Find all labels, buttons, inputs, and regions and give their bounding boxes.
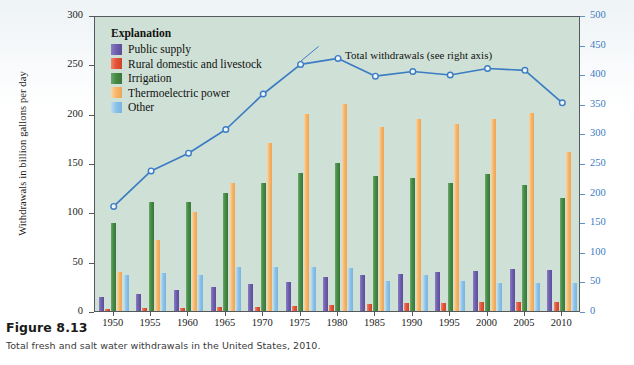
left-tick-mark-150 (89, 164, 94, 165)
bar-thermoelectric-2000 (491, 119, 496, 311)
bar-rural-2005 (516, 302, 521, 311)
x-tick-mark-2000 (487, 312, 488, 316)
bar-other-1950 (124, 275, 129, 312)
bar-irrigation-2005 (522, 185, 527, 311)
bar-public-1990 (398, 274, 403, 311)
bar-other-1960 (198, 275, 203, 312)
bar-other-1970 (273, 267, 278, 311)
bar-public-2010 (547, 270, 552, 311)
left-tick-label-50: 50 (49, 256, 83, 267)
bar-irrigation-2010 (560, 198, 565, 311)
bar-group-1990 (398, 17, 428, 311)
right-tick-mark-300 (580, 134, 585, 135)
bar-other-1995 (460, 281, 465, 311)
bar-thermoelectric-1965 (230, 183, 235, 311)
bar-group-1950 (99, 17, 129, 311)
bar-other-2010 (572, 283, 577, 311)
bar-thermoelectric-2005 (529, 113, 534, 311)
bar-public-1960 (174, 290, 179, 311)
right-tick-label-450: 450 (590, 39, 624, 50)
left-tick-mark-250 (89, 65, 94, 66)
x-tick-mark-1950 (113, 312, 114, 316)
bar-public-1995 (435, 272, 440, 311)
bar-group-1965 (211, 17, 241, 311)
x-tick-mark-1960 (187, 312, 188, 316)
x-tick-mark-1965 (225, 312, 226, 316)
right-tick-label-250: 250 (590, 157, 624, 168)
bar-other-1965 (236, 267, 241, 311)
bar-thermoelectric-1970 (267, 143, 272, 311)
bar-irrigation-1995 (448, 183, 453, 311)
right-tick-mark-0 (580, 312, 585, 313)
bar-irrigation-1985 (373, 176, 378, 311)
bar-irrigation-2000 (485, 174, 490, 311)
bar-other-1955 (161, 273, 166, 311)
bar-thermoelectric-1955 (155, 240, 160, 311)
bar-group-1980 (323, 17, 353, 311)
left-tick-mark-300 (89, 16, 94, 17)
bar-irrigation-1980 (335, 163, 340, 311)
bar-rural-1985 (367, 304, 372, 311)
bar-thermoelectric-1950 (117, 272, 122, 311)
left-axis-title: Withdrawals in billion gallons per day (17, 54, 28, 254)
right-tick-mark-450 (580, 46, 585, 47)
right-tick-label-350: 350 (590, 98, 624, 109)
bar-thermoelectric-1980 (342, 104, 347, 311)
bar-rural-1965 (217, 307, 222, 311)
bar-group-2010 (547, 17, 577, 311)
bar-group-1995 (435, 17, 465, 311)
figure-container: Explanation Public supply Rural domestic… (0, 0, 634, 365)
bar-group-2005 (510, 17, 540, 311)
x-tick-mark-1980 (337, 312, 338, 316)
bar-irrigation-1970 (261, 183, 266, 311)
bar-rural-2000 (479, 302, 484, 311)
bar-irrigation-1950 (111, 223, 116, 311)
bar-other-1985 (385, 281, 390, 311)
right-tick-label-200: 200 (590, 187, 624, 198)
bar-thermoelectric-1975 (304, 114, 309, 311)
x-tick-mark-1975 (300, 312, 301, 316)
bar-rural-1955 (142, 308, 147, 311)
bar-rural-1970 (255, 307, 260, 311)
right-tick-mark-250 (580, 164, 585, 165)
right-tick-mark-150 (580, 223, 585, 224)
right-tick-mark-50 (580, 282, 585, 283)
bar-group-1960 (174, 17, 204, 311)
bar-group-1955 (136, 17, 166, 311)
figure-caption: Figure 8.13 Total fresh and salt water w… (6, 320, 626, 351)
bar-thermoelectric-1985 (379, 127, 384, 312)
left-tick-label-250: 250 (49, 58, 83, 69)
left-tick-label-300: 300 (49, 9, 83, 20)
bar-irrigation-1965 (223, 193, 228, 311)
bar-groups-layer (95, 17, 579, 311)
line-annotation-label: Total withdrawals (see right axis) (345, 49, 492, 61)
right-tick-label-400: 400 (590, 68, 624, 79)
bar-thermoelectric-1995 (454, 124, 459, 311)
bar-irrigation-1960 (186, 202, 191, 311)
x-tick-mark-2005 (524, 312, 525, 316)
bar-rural-1950 (105, 309, 110, 311)
bar-rural-1995 (441, 303, 446, 311)
right-tick-label-500: 500 (590, 9, 624, 20)
right-tick-mark-400 (580, 75, 585, 76)
right-tick-label-50: 50 (590, 275, 624, 286)
right-tick-label-150: 150 (590, 216, 624, 227)
bar-rural-2010 (554, 302, 559, 311)
bar-irrigation-1955 (149, 202, 154, 311)
right-tick-mark-350 (580, 105, 585, 106)
bar-group-1975 (286, 17, 316, 311)
right-tick-mark-500 (580, 16, 585, 17)
bar-public-1980 (323, 277, 328, 311)
bar-public-1965 (211, 287, 216, 311)
bar-other-1975 (311, 267, 316, 311)
chart-plot-area: Explanation Public supply Rural domestic… (94, 16, 580, 312)
bar-irrigation-1990 (410, 178, 415, 311)
bar-thermoelectric-1960 (192, 212, 197, 311)
bar-group-1970 (248, 17, 278, 311)
left-tick-mark-100 (89, 213, 94, 214)
bar-public-1975 (286, 282, 291, 311)
right-tick-mark-200 (580, 194, 585, 195)
x-tick-mark-2010 (561, 312, 562, 316)
left-tick-label-0: 0 (49, 305, 83, 316)
caption-text: Total fresh and salt water withdrawals i… (6, 340, 626, 351)
